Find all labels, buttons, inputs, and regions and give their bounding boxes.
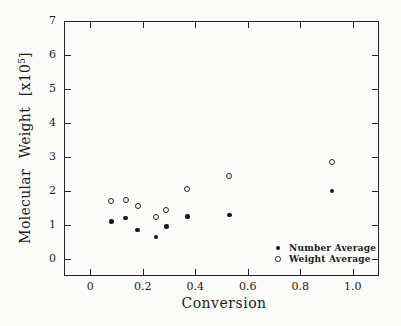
x-tick-top xyxy=(90,22,91,28)
x-tick-label: 0 xyxy=(87,281,94,292)
y-tick-right xyxy=(372,21,378,22)
x-tick-label: 1.0 xyxy=(344,281,362,292)
y-tick-left xyxy=(65,259,71,260)
y-tick-left xyxy=(65,225,71,226)
x-tick-label: 0.2 xyxy=(134,281,152,292)
y-axis-title-superscript: 5 xyxy=(17,58,27,64)
y-tick-right xyxy=(372,55,378,56)
legend-label-weight-average: Weight Average xyxy=(289,254,371,264)
y-axis-title-suffix: ] xyxy=(17,52,33,58)
y-tick-label: 2 xyxy=(36,185,56,196)
legend-item-number-average: Number Average xyxy=(275,243,376,253)
y-tick-right xyxy=(372,225,378,226)
y-tick-right xyxy=(372,191,378,192)
y-tick-left xyxy=(65,89,71,90)
y-tick-left xyxy=(65,157,71,158)
y-axis-title: Molecular Weight [x105] xyxy=(17,52,34,243)
data-point-weight-average xyxy=(153,214,159,220)
y-tick-label: 6 xyxy=(36,49,56,60)
x-tick-label: 0.8 xyxy=(292,281,310,292)
y-tick-right xyxy=(372,89,378,90)
data-point-number-average xyxy=(135,228,140,233)
plot-area-frame xyxy=(64,21,379,276)
data-point-number-average xyxy=(164,224,169,229)
data-point-weight-average xyxy=(329,159,335,165)
x-tick-bottom xyxy=(90,269,91,275)
x-tick-top xyxy=(353,22,354,28)
legend-label-number-average: Number Average xyxy=(289,243,376,253)
data-point-number-average xyxy=(227,213,232,218)
data-point-weight-average xyxy=(135,203,141,209)
y-axis-title-text: Molecular Weight [x10 xyxy=(17,64,33,244)
x-tick-bottom xyxy=(143,269,144,275)
y-tick-left xyxy=(65,123,71,124)
y-tick-label: 5 xyxy=(36,83,56,94)
x-tick-top xyxy=(195,22,196,28)
x-tick-bottom xyxy=(300,269,301,275)
x-tick-bottom xyxy=(353,269,354,275)
y-tick-label: 7 xyxy=(36,15,56,26)
x-tick-label: 0.6 xyxy=(239,281,257,292)
y-tick-left xyxy=(65,191,71,192)
open-circle-marker-icon xyxy=(275,256,281,262)
x-axis-title: Conversion xyxy=(181,295,266,311)
scatter-plot-figure: Molecular Weight [x105] Conversion Numbe… xyxy=(0,0,401,326)
filled-circle-marker-icon xyxy=(276,246,280,250)
y-tick-left xyxy=(65,21,71,22)
y-tick-label: 4 xyxy=(36,117,56,128)
x-tick-label: 0.4 xyxy=(187,281,205,292)
data-point-number-average xyxy=(109,219,114,224)
y-tick-left xyxy=(65,55,71,56)
x-tick-top xyxy=(248,22,249,28)
y-tick-label: 0 xyxy=(36,253,56,264)
y-tick-right xyxy=(372,259,378,260)
y-tick-right xyxy=(372,123,378,124)
y-tick-label: 3 xyxy=(36,151,56,162)
x-tick-top xyxy=(143,22,144,28)
x-tick-top xyxy=(300,22,301,28)
data-point-weight-average xyxy=(123,197,129,203)
y-tick-label: 1 xyxy=(36,219,56,230)
x-tick-bottom xyxy=(248,269,249,275)
data-point-number-average xyxy=(185,214,190,219)
legend-item-weight-average: Weight Average xyxy=(275,254,376,264)
legend: Number Average Weight Average xyxy=(275,243,376,265)
x-tick-bottom xyxy=(195,269,196,275)
y-tick-right xyxy=(372,157,378,158)
